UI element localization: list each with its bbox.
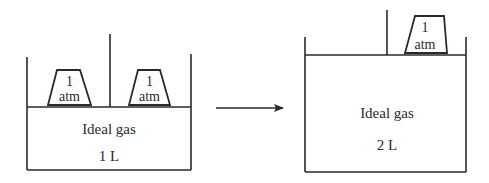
weight-label-value: 1 [422,20,429,35]
right-weight-1: 1 atm [405,16,447,53]
weight-label-unit: atm [415,37,436,52]
weight-label-value: 1 [66,74,73,89]
weight-label-unit: atm [139,89,160,104]
right-gas-label: Ideal gas [360,105,414,121]
left-container: 1 atm 1 atm Ideal gas 1 L [27,34,191,170]
left-weight-1: 1 atm [48,70,91,105]
left-volume-label: 1 L [99,148,119,164]
left-weight-2: 1 atm [129,70,170,105]
gas-expansion-diagram: 1 atm 1 atm Ideal gas 1 L 1 atm Ideal ga… [0,0,489,183]
right-volume-label: 2 L [377,137,397,153]
right-container: 1 atm Ideal gas 2 L [305,10,466,172]
weight-label-value: 1 [146,74,153,89]
left-gas-label: Ideal gas [82,121,136,137]
weight-label-unit: atm [59,89,80,104]
